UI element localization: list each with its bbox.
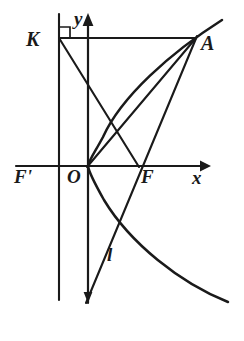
y-axis-arrowhead: [83, 13, 94, 26]
label-x-axis: x: [192, 168, 202, 187]
segment-AO: [87, 38, 196, 167]
parabola-figure: K A y x O F F' l: [0, 0, 244, 341]
label-y-axis: y: [74, 9, 82, 28]
label-line-l: l: [107, 245, 112, 264]
label-F-prime: F': [14, 167, 32, 186]
right-angle-marker-icon: [59, 27, 70, 38]
label-K: K: [26, 29, 39, 49]
label-O-origin: O: [67, 167, 81, 186]
label-F-focus: F: [141, 167, 154, 186]
segment-KF: [59, 38, 139, 167]
label-A: A: [201, 33, 214, 53]
